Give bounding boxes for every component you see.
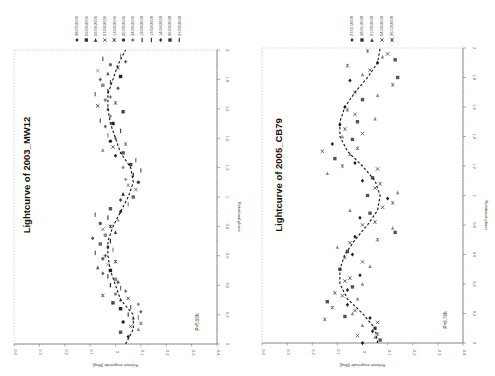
- lightcurve-chart-1: 00.20.40.60.811.21.41.61.820.40.30.20.10…: [13, 15, 242, 368]
- phase-tick-label: 0.2: [472, 311, 477, 317]
- phase-axis-title: Rotational phase: [237, 202, 242, 233]
- magnitude-tick-label: 0.2: [64, 349, 69, 355]
- phase-tick-label: 0: [472, 342, 477, 345]
- phase-tick-label: 1: [225, 196, 230, 199]
- magnitude-tick-label: 0: [115, 351, 120, 354]
- magnitude-tick-label: -0.1: [387, 349, 392, 357]
- plot-area: [14, 50, 217, 344]
- magnitude-tick-label: 0.3: [286, 349, 291, 355]
- phase-tick-label: 1.8: [225, 77, 230, 83]
- phase-tick-label: 1.2: [472, 163, 477, 169]
- phase-tick-label: 0.8: [225, 224, 230, 230]
- magnitude-tick-label: 0.1: [336, 349, 341, 355]
- phase-tick-label: 1.2: [225, 165, 230, 171]
- magnitude-tick-label: -0.2: [165, 349, 170, 357]
- phase-tick-label: 1.4: [472, 134, 477, 140]
- magnitude-tick-label: -0.3: [191, 349, 196, 357]
- phase-tick-label: 1.8: [472, 75, 477, 81]
- legend-item: 04/06/2008: [379, 15, 384, 36]
- phase-tick-label: 1.4: [225, 135, 230, 141]
- phase-tick-label: 1.6: [225, 106, 230, 112]
- legend-item: 13/06/2006: [112, 15, 117, 36]
- legend-item: 07/06/2006: [102, 15, 107, 36]
- rotated-figure-page: 00.20.40.60.811.21.41.61.820.40.30.20.10…: [0, 0, 495, 376]
- legend-item: 28/05/2006: [74, 15, 79, 36]
- phase-tick-label: 0: [225, 343, 230, 346]
- chart-title: Lightcurve of 2003_MW12: [21, 117, 32, 234]
- phase-tick-label: 0.8: [472, 222, 477, 228]
- phase-tick-label: 1.6: [472, 104, 477, 110]
- legend-item: 14/04/2008: [158, 15, 163, 36]
- magnitude-tick-label: 0.3: [38, 349, 43, 355]
- magnitude-tick-label: 0.4: [13, 349, 18, 355]
- phase-tick-label: 2: [472, 47, 477, 50]
- period-annotation: P=6.76h: [443, 311, 448, 328]
- magnitude-tick-label: -0.2: [412, 349, 417, 357]
- magnitude-tick-label: 0.4: [261, 349, 266, 355]
- phase-tick-label: 1: [472, 194, 477, 197]
- legend-item: 27/04/2008: [177, 15, 182, 36]
- legend-item: 09/06/2006: [84, 15, 89, 36]
- plot-area: [262, 48, 463, 343]
- magnitude-tick-label: -0.4: [216, 349, 221, 357]
- legend-item: 27/01/2008: [349, 15, 354, 36]
- phase-tick-label: 2: [225, 49, 230, 52]
- phase-tick-label: 0.6: [472, 252, 477, 258]
- magnitude-tick-label: -0.3: [437, 349, 442, 357]
- magnitude-axis-title: Relative magnitude [Mag]: [93, 363, 138, 368]
- legend-item: 01/06/2008: [369, 15, 374, 36]
- chart-title: Lightcurve of 2005_CB79: [273, 118, 284, 232]
- phase-tick-label: 0.2: [225, 312, 230, 318]
- magnitude-tick-label: 0.2: [311, 349, 316, 355]
- legend-item: 25/06/2006: [121, 15, 126, 36]
- magnitude-tick-label: 0.1: [89, 349, 94, 355]
- magnitude-axis-title: Relative magnitude [Mag]: [340, 363, 385, 368]
- legend-item: 06/06/2006: [93, 15, 98, 36]
- legend: 27/01/200828/01/200801/06/200804/06/2008…: [349, 15, 394, 42]
- magnitude-tick-label: 0: [362, 351, 367, 354]
- period-annotation: P=5.90h: [195, 313, 200, 330]
- legend-item: 28/01/2008: [359, 15, 364, 36]
- legend-item: 26/12/2008: [389, 15, 394, 36]
- legend-item: 13/04/2008: [149, 15, 154, 36]
- lightcurve-chart-2: 00.20.40.60.811.21.41.61.820.40.30.20.10…: [261, 15, 489, 368]
- phase-axis-title: Rotational phase: [484, 200, 489, 231]
- legend-item: 24/06/2006: [130, 15, 135, 36]
- phase-tick-label: 0.4: [225, 282, 230, 288]
- legend-item: 26/04/2008: [167, 15, 172, 36]
- phase-tick-label: 0.4: [472, 281, 477, 287]
- legend: 28/05/200609/06/200606/06/200607/06/2006…: [74, 15, 181, 42]
- magnitude-tick-label: -0.4: [462, 349, 467, 357]
- legend-item: 12/04/2008: [139, 15, 144, 36]
- phase-tick-label: 0.6: [225, 253, 230, 259]
- magnitude-tick-label: -0.1: [140, 349, 145, 357]
